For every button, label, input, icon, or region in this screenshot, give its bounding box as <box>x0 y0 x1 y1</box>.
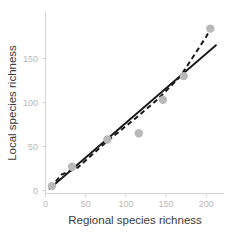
data-point <box>180 72 188 80</box>
y-tick-label-50: 50 <box>28 142 38 152</box>
data-point <box>103 135 111 143</box>
data-point <box>206 24 214 32</box>
y-axis-title: Local species richness <box>6 45 18 161</box>
data-point <box>159 96 167 104</box>
x-axis-title: Regional species richness <box>68 214 202 226</box>
x-tick-label-150: 150 <box>159 199 174 209</box>
x-tick-label-100: 100 <box>118 199 133 209</box>
y-tick-label-100: 100 <box>23 98 38 108</box>
y-tick-label-150: 150 <box>23 54 38 64</box>
y-axis-ticks <box>42 59 46 191</box>
x-tick-label-0: 0 <box>43 199 48 209</box>
data-point <box>48 182 56 190</box>
data-point <box>135 129 143 137</box>
x-tick-label-50: 50 <box>81 199 91 209</box>
data-point <box>68 163 76 171</box>
scatter-plot-figure: 0 50 100 150 0 50 100 150 200 Regional s… <box>0 0 238 239</box>
chart-canvas: 0 50 100 150 0 50 100 150 200 Regional s… <box>0 0 238 239</box>
y-tick-label-0: 0 <box>33 186 38 196</box>
data-point-group <box>48 24 215 190</box>
x-axis-ticks <box>46 194 207 198</box>
x-tick-label-200: 200 <box>199 199 214 209</box>
alternative-fit-line <box>50 23 213 188</box>
